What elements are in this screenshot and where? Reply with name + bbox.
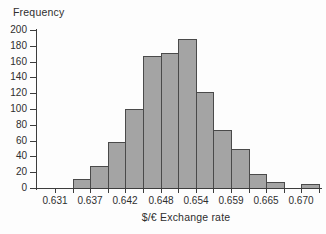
x-tick-label: 0.642 (108, 195, 142, 207)
y-axis-tick (30, 141, 36, 142)
x-tick-label: 0.648 (144, 195, 178, 207)
y-tick-label: 0 (0, 182, 27, 194)
histogram-bar (213, 130, 232, 189)
histogram-bar (231, 149, 250, 189)
histogram-figure: Frequency 0204060801001201401601802000.6… (0, 0, 326, 234)
y-tick-label: 20 (0, 166, 27, 178)
y-tick-label: 180 (0, 40, 27, 52)
y-axis-line (36, 29, 37, 190)
histogram-bar (125, 109, 144, 189)
x-axis-tick (161, 189, 162, 193)
x-axis-tick (178, 189, 179, 193)
y-axis-title: Frequency (13, 6, 64, 18)
x-tick-label: 0.654 (179, 195, 213, 207)
y-axis-tick (30, 93, 36, 94)
histogram-bar (143, 56, 162, 189)
y-axis-tick (30, 188, 36, 189)
x-axis-tick (55, 189, 56, 193)
histogram-bar (90, 166, 109, 189)
y-axis-tick (30, 77, 36, 78)
y-axis-tick (30, 109, 36, 110)
x-axis-tick (73, 189, 74, 193)
x-axis-tick (284, 189, 285, 193)
y-axis-tick (30, 30, 36, 31)
x-tick-label: 0.631 (38, 195, 72, 207)
x-axis-title: $/€ Exchange rate (116, 211, 256, 223)
x-axis-tick (249, 189, 250, 193)
x-axis-tick (108, 189, 109, 193)
x-tick-label: 0.659 (214, 195, 248, 207)
y-axis-tick (30, 156, 36, 157)
histogram-bar (249, 174, 267, 189)
histogram-bar (161, 53, 179, 189)
x-axis-tick (143, 189, 144, 193)
y-tick-label: 40 (0, 150, 27, 162)
y-axis-tick (30, 172, 36, 173)
y-axis-tick (30, 62, 36, 63)
x-axis-tick (231, 189, 232, 193)
x-axis-line (36, 188, 322, 189)
y-tick-label: 200 (0, 24, 27, 36)
y-axis-tick (30, 46, 36, 47)
y-tick-label: 120 (0, 87, 27, 99)
x-axis-tick (319, 189, 320, 193)
x-tick-label: 0.637 (73, 195, 107, 207)
y-tick-label: 100 (0, 103, 27, 115)
x-tick-label: 0.665 (249, 195, 283, 207)
x-axis-tick (213, 189, 214, 193)
histogram-bar (108, 142, 126, 189)
y-axis-tick (30, 125, 36, 126)
y-tick-label: 80 (0, 119, 27, 131)
histogram-bar (178, 39, 197, 189)
x-axis-tick (301, 189, 302, 193)
y-tick-label: 60 (0, 135, 27, 147)
y-tick-label: 160 (0, 56, 27, 68)
x-axis-tick (196, 189, 197, 193)
x-tick-label: 0.670 (284, 195, 318, 207)
histogram-bar (196, 92, 214, 189)
y-tick-label: 140 (0, 71, 27, 83)
x-axis-tick (266, 189, 267, 193)
x-axis-tick (125, 189, 126, 193)
x-axis-tick (90, 189, 91, 193)
